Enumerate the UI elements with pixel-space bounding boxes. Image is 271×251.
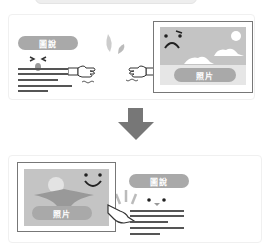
top-bar-remnant — [35, 0, 197, 4]
smile-face-icon — [146, 196, 168, 208]
caption-text-line — [130, 221, 168, 223]
caption-text-line — [18, 68, 70, 70]
down-arrow-icon — [128, 108, 143, 122]
down-arrow-head — [118, 122, 154, 140]
caption-text-line — [130, 233, 160, 235]
caption-label: 圖說 — [39, 38, 57, 49]
photo-pill-before: 照片 — [174, 68, 236, 82]
caption-text-line — [18, 73, 70, 75]
photo-label: 照片 — [196, 70, 214, 81]
sweat-drops-icon — [102, 34, 128, 58]
caption-pill-before: 圖說 — [18, 36, 78, 50]
photo-card-before: 照片 — [153, 21, 253, 93]
hand-push-left-icon — [122, 62, 156, 86]
caption-text-line — [18, 85, 72, 87]
caption-text-line — [18, 79, 58, 81]
photo-pill-after: 照片 — [32, 206, 92, 220]
caption-text-line — [130, 227, 184, 229]
photo-label: 照片 — [53, 208, 71, 219]
hand-push-right-icon — [68, 62, 102, 86]
caption-text-line — [130, 215, 184, 217]
caption-text-line — [130, 210, 184, 212]
caption-label: 圖說 — [150, 176, 168, 187]
photo-card-after: 照片 — [17, 162, 116, 232]
happy-face-icon — [82, 171, 106, 191]
sun-clouds-icon — [184, 30, 246, 65]
caption-pill-after: 圖說 — [129, 174, 189, 188]
caption-text-line — [18, 90, 48, 92]
